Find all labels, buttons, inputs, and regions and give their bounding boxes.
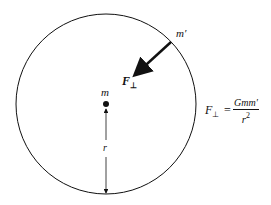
equation-numerator: Gmm′ [233,97,259,110]
label-r: r [103,143,107,153]
equation-equals: = [224,104,231,116]
equation-lhs: F⊥ [205,104,219,119]
label-m: m [101,87,109,98]
label-force: F⊥ [122,75,137,90]
force-arrow [136,42,171,74]
central-mass-dot [103,101,109,107]
equation-denominator: r2 [233,110,259,125]
equation-fraction: Gmm′ r2 [233,97,259,125]
label-m-prime: m′ [176,28,186,39]
